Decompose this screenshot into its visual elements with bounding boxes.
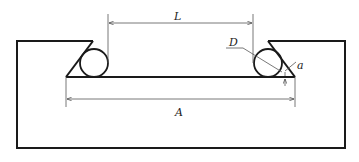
- left-dovetail-flank: [66, 41, 93, 77]
- label-a: a: [297, 59, 304, 72]
- label-D: D: [228, 36, 238, 49]
- dovetail-diagram: L A D a: [0, 0, 359, 162]
- left-roller: [80, 49, 108, 77]
- label-L: L: [173, 10, 181, 23]
- label-A: A: [174, 106, 183, 119]
